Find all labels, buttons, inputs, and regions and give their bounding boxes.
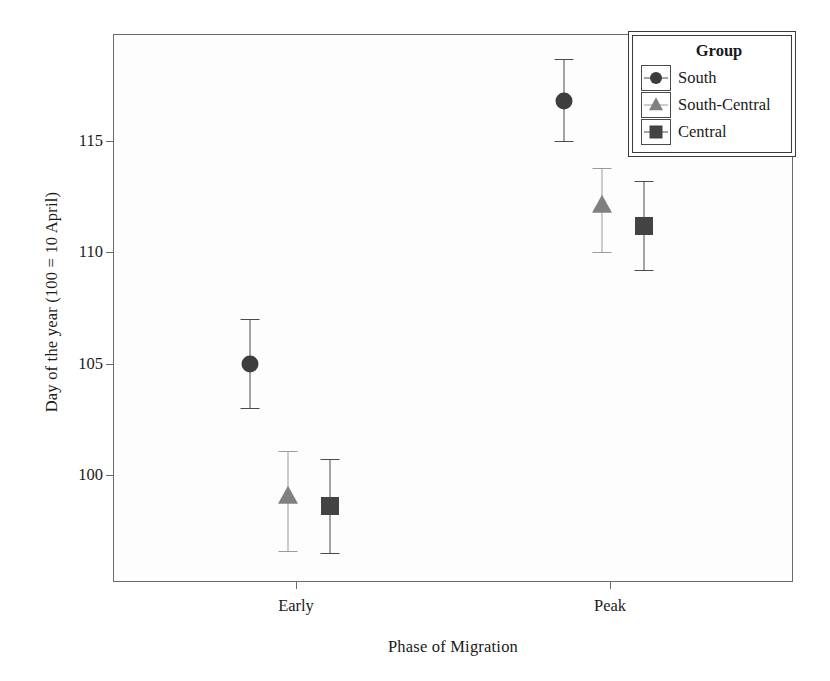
y-tick-mark (106, 252, 113, 253)
chart-figure: Day of the year (100 = 10 April) Phase o… (0, 0, 830, 681)
x-axis-title: Phase of Migration (113, 637, 793, 657)
marker-square (321, 497, 339, 515)
marker-circle (242, 355, 259, 372)
legend: Group SouthSouth-CentralCentral (628, 31, 796, 157)
y-tick-label: 115 (47, 131, 103, 151)
y-tick-label: 100 (47, 465, 103, 485)
errorbar-cap-lower (279, 551, 298, 552)
x-tick-mark (296, 582, 297, 589)
y-tick-mark (106, 141, 113, 142)
legend-key-square (641, 119, 671, 145)
x-tick-mark (610, 582, 611, 589)
x-tick-label: Peak (594, 596, 626, 616)
errorbar-cap-lower (635, 270, 654, 271)
errorbar-cap-lower (593, 252, 612, 253)
legend-inner: Group SouthSouth-CentralCentral (632, 35, 792, 153)
legend-key-marker (650, 72, 662, 84)
errorbar-cap-lower (241, 408, 260, 409)
legend-entry[interactable]: South-Central (641, 91, 783, 118)
legend-entries: SouthSouth-CentralCentral (641, 64, 783, 145)
legend-entry[interactable]: South (641, 64, 783, 91)
marker-triangle (278, 486, 298, 504)
legend-label: South-Central (678, 95, 771, 115)
errorbar-cap-upper (635, 181, 654, 182)
legend-key-triangle (641, 92, 671, 118)
errorbar-cap-upper (593, 168, 612, 169)
x-tick-label: Early (278, 596, 314, 616)
y-tick-mark (106, 364, 113, 365)
errorbar-cap-upper (555, 59, 574, 60)
marker-circle (556, 92, 573, 109)
errorbar-cap-lower (555, 141, 574, 142)
legend-title: Group (641, 41, 783, 64)
legend-key-circle (641, 65, 671, 91)
errorbar-cap-upper (279, 451, 298, 452)
marker-triangle (592, 194, 612, 212)
errorbar-cap-upper (241, 319, 260, 320)
legend-entry[interactable]: Central (641, 118, 783, 145)
errorbar-cap-lower (321, 553, 340, 554)
legend-label: Central (678, 122, 727, 142)
y-tick-label: 110 (47, 242, 103, 262)
y-tick-mark (106, 475, 113, 476)
legend-label: South (678, 68, 717, 88)
marker-square (635, 217, 653, 235)
y-tick-label: 105 (47, 354, 103, 374)
legend-key-marker (650, 125, 663, 138)
legend-key-marker (649, 97, 663, 110)
errorbar-cap-upper (321, 459, 340, 460)
y-axis-title: Day of the year (100 = 10 April) (42, 22, 62, 582)
